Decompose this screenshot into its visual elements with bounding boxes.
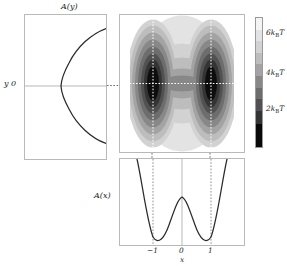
colorbar: [255, 17, 263, 148]
colorbar-segment: [256, 64, 262, 76]
colorbar-segment: [256, 18, 262, 30]
colorbar-tick-2: 2kBT: [266, 104, 284, 114]
panel-contour-map: [119, 14, 245, 153]
xtick-1: 1: [208, 246, 213, 255]
panel-a-of-y: [24, 14, 107, 160]
colorbar-segment: [256, 124, 262, 147]
colorbar-segment: [256, 41, 262, 53]
xtick-0: 0: [179, 246, 184, 255]
colorbar-segment: [256, 30, 262, 42]
colorbar-tick-2-unit: T: [279, 104, 284, 113]
colorbar-tick-4-unit: T: [279, 68, 284, 77]
contour-plot: [120, 15, 244, 152]
colorbar-tick-6-unit: T: [279, 28, 284, 37]
colorbar-tick-2-value: 2k: [266, 104, 275, 113]
colorbar-segment: [256, 99, 262, 111]
colorbar-segment: [256, 111, 262, 124]
figure-root: A(y) y 0: [0, 0, 287, 266]
panel-ay-title: A(y): [61, 2, 78, 11]
colorbar-segment: [256, 76, 262, 88]
panel-ax-plot: [120, 159, 244, 245]
colorbar-tick-6: 6kBT: [266, 28, 284, 38]
panel-a-of-x: [119, 158, 245, 246]
colorbar-tick-6-value: 6k: [266, 28, 275, 37]
panel-ay-plot: [25, 15, 106, 159]
colorbar-segment: [256, 53, 262, 65]
colorbar-segment: [256, 88, 262, 100]
colorbar-tick-4: 4kBT: [266, 68, 284, 78]
colorbar-tick-4-value: 4k: [266, 68, 275, 77]
x-axis-label: x: [180, 255, 184, 264]
y-axis-label: y 0: [4, 79, 16, 88]
xtick-minus-1: −1: [147, 246, 158, 255]
panel-ax-title: A(x): [94, 191, 111, 200]
